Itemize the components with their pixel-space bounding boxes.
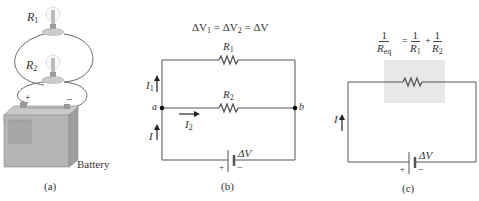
r2-label: R2 xyxy=(223,88,234,102)
lhs-fraction: 1 Req xyxy=(377,30,391,57)
battery-plus-c: + xyxy=(400,164,405,174)
term2-fraction: 1 R2 xyxy=(432,30,443,57)
node-a-label: a xyxy=(152,101,157,112)
battery-minus-c: − xyxy=(418,164,424,175)
battery-dv-label-c: ΔV xyxy=(419,149,432,161)
arrow-up-icon xyxy=(154,75,160,92)
current-i-label-c: I xyxy=(334,113,338,125)
current-i2-label: I2 xyxy=(185,118,193,132)
bulb-r2-label: R2 xyxy=(26,58,37,73)
arrow-right-icon xyxy=(179,111,200,117)
current-i1-label: I1 xyxy=(146,79,154,93)
node-b-label: b xyxy=(299,101,304,112)
battery-minus-label: − xyxy=(66,93,72,105)
battery-plus-label: + xyxy=(25,92,31,103)
term1-fraction: 1 R1 xyxy=(410,30,421,57)
arrow-up-icon xyxy=(339,114,345,131)
battery-minus-b: − xyxy=(237,162,243,173)
r1-label: R1 xyxy=(223,40,234,54)
current-i-label: I xyxy=(149,130,153,142)
battery-label: Battery xyxy=(77,158,109,170)
caption-b: (b) xyxy=(221,180,234,192)
bulb-r1-label: R1 xyxy=(27,10,38,25)
arrow-up-icon xyxy=(154,124,160,140)
bulb-r1-icon xyxy=(42,7,64,36)
node-b-dot xyxy=(293,106,298,111)
plus-sign: + xyxy=(425,35,431,46)
equals-sign: = xyxy=(402,35,408,46)
equation-b: ΔV1 = ΔV2 = ΔV xyxy=(192,21,269,35)
node-a-dot xyxy=(160,106,165,111)
bulb-r2-icon xyxy=(42,55,64,84)
battery-plus-b: + xyxy=(219,162,224,172)
battery-dv-label: ΔV xyxy=(238,147,251,159)
caption-a: (a) xyxy=(44,180,56,192)
car-battery-icon xyxy=(4,102,78,167)
caption-c: (c) xyxy=(402,182,414,194)
panel-a-illustration xyxy=(4,7,93,167)
